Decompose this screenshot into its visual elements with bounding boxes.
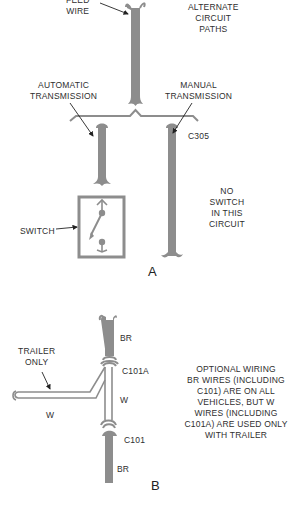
w-horizontal-label: W: [46, 410, 54, 421]
note-line-6: C101A) ARE USED ONLY: [176, 419, 296, 430]
manual-line2: TRANSMISSION: [165, 91, 232, 102]
splice-bus: [70, 110, 198, 121]
automatic-line2: TRANSMISSION: [30, 91, 97, 102]
connector-c101: [101, 421, 116, 429]
note-line-4: VEHICLES, BUT W: [176, 397, 296, 408]
no-switch-line4: CIRCUIT: [209, 219, 245, 230]
br-bottom-label: BR: [117, 464, 129, 475]
manual-branch-wire: [161, 124, 183, 258]
trailer-line2: ONLY: [18, 357, 55, 368]
manual-line1: MANUAL: [165, 80, 232, 91]
feed-wire-label-line2: WIRE: [66, 6, 89, 17]
optional-wiring-note: OPTIONAL WIRING BR WIRES (INCLUDING C101…: [176, 364, 296, 441]
connector-c101-label: C101: [124, 435, 145, 446]
connector-c101a: [101, 357, 118, 366]
no-switch-line2: SWITCH: [209, 197, 245, 208]
wiring-diagram: FEED WIRE ALTERNATE CIRCUIT PATHS AUTOMA…: [0, 0, 306, 505]
trailer-pointer: [42, 372, 50, 389]
manual-pointer: [173, 103, 192, 133]
note-line-2: BR WIRES (INCLUDING: [176, 375, 296, 386]
note-line-3: C101) ARE ON ALL: [176, 386, 296, 397]
trailer-only-label: TRAILER ONLY: [18, 346, 55, 368]
automatic-pointer: [70, 103, 93, 136]
automatic-transmission-label: AUTOMATIC TRANSMISSION: [30, 80, 97, 102]
note-line-5: WIRES (INCLUDING: [176, 408, 296, 419]
no-switch-line1: NO: [209, 186, 245, 197]
panel-a-letter: A: [148, 264, 157, 279]
note-line-1: OPTIONAL WIRING: [176, 364, 296, 375]
panel-b-letter: B: [151, 478, 160, 493]
alternate-circuit-paths-label: ALTERNATE CIRCUIT PATHS: [188, 2, 239, 35]
note-line-7: WITH TRAILER: [176, 430, 296, 441]
feed-wire: [126, 3, 145, 106]
no-switch-label: NO SWITCH IN THIS CIRCUIT: [209, 186, 245, 230]
switch-pointer: [56, 227, 77, 229]
automatic-line1: AUTOMATIC: [30, 80, 97, 91]
br-top-label: BR: [120, 333, 132, 344]
br-wire-bottom: [102, 431, 117, 483]
switch-box: [79, 197, 124, 257]
switch-label: SWITCH: [20, 226, 55, 237]
automatic-branch-wire: [93, 124, 111, 187]
trailer-line1: TRAILER: [18, 346, 55, 357]
w-wires: [13, 367, 112, 420]
w-vertical-label: W: [120, 395, 128, 406]
no-switch-line3: IN THIS: [209, 208, 245, 219]
feed-wire-label: FEED WIRE: [66, 0, 89, 17]
br-wire-top: [100, 315, 117, 356]
connector-c101a-label: C101A: [122, 366, 149, 377]
alternate-line1: ALTERNATE: [188, 2, 239, 13]
alternate-line3: PATHS: [188, 24, 239, 35]
connector-c305-label: C305: [188, 131, 209, 142]
feed-wire-pointer: [100, 3, 128, 14]
manual-transmission-label: MANUAL TRANSMISSION: [165, 80, 232, 102]
alternate-line2: CIRCUIT: [188, 13, 239, 24]
